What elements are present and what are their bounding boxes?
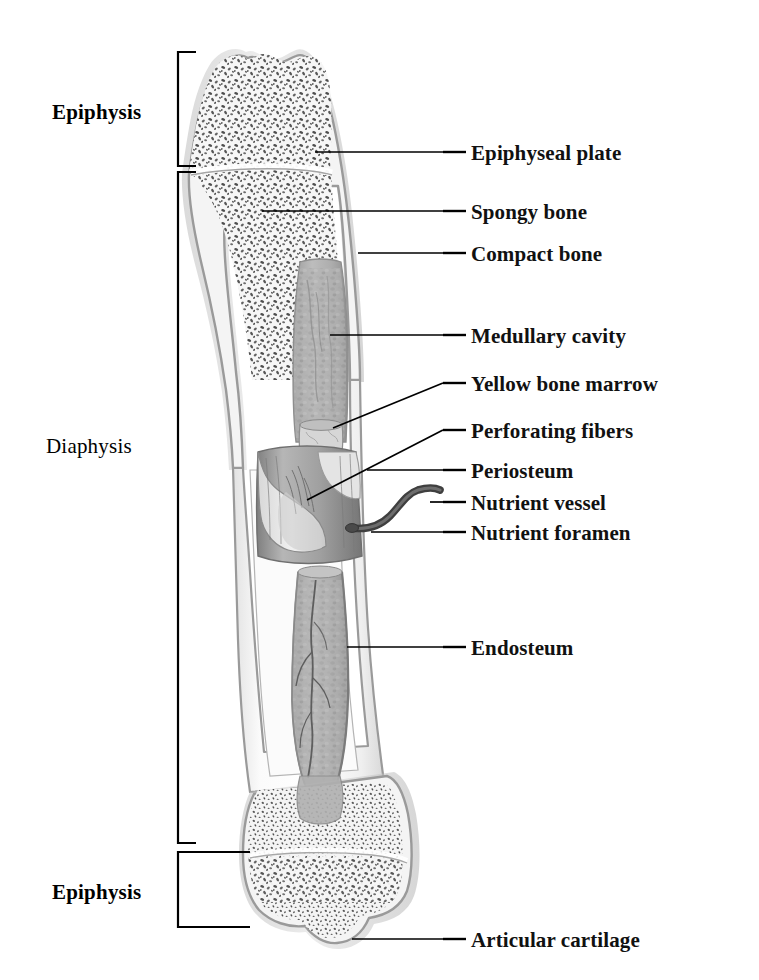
region-label-epiphysis-distal: Epiphysis (52, 880, 141, 905)
callout-label-compact-bone: Compact bone (471, 242, 602, 267)
nutrient-vessel-tube (352, 488, 440, 528)
callout-label-perforating-fibers: Perforating fibers (471, 419, 633, 444)
bracket-diaphysis (178, 172, 196, 843)
medullary-cavity-lower (288, 568, 352, 797)
medullary-cavity-upper (290, 259, 352, 446)
callout-label-articular-cartilage: Articular cartilage (471, 928, 640, 953)
bone-diagram-page: Epiphysis Diaphysis Epiphysis Epiphyseal… (0, 0, 759, 980)
periosteum-cuff (257, 446, 363, 564)
callout-label-periosteum: Periosteum (471, 459, 573, 484)
bracket-epiphysis-distal (178, 852, 250, 927)
long-bone-illustration (0, 0, 759, 980)
callout-label-epiphyseal-plate: Epiphyseal plate (471, 141, 621, 166)
region-label-epiphysis-proximal: Epiphysis (52, 100, 141, 125)
region-label-diaphysis: Diaphysis (46, 434, 132, 459)
nutrient-foramen-opening (346, 524, 359, 533)
callout-label-nutrient-foramen: Nutrient foramen (471, 521, 631, 546)
callout-label-endosteum: Endosteum (471, 636, 573, 661)
callout-label-yellow-bone-marrow: Yellow bone marrow (471, 372, 658, 397)
spongy-bone-proximal-head (180, 50, 340, 176)
callout-label-medullary-cavity: Medullary cavity (471, 324, 626, 349)
callout-dashes (443, 152, 466, 939)
callout-label-nutrient-vessel: Nutrient vessel (471, 491, 606, 516)
callout-label-spongy-bone: Spongy bone (471, 200, 587, 225)
